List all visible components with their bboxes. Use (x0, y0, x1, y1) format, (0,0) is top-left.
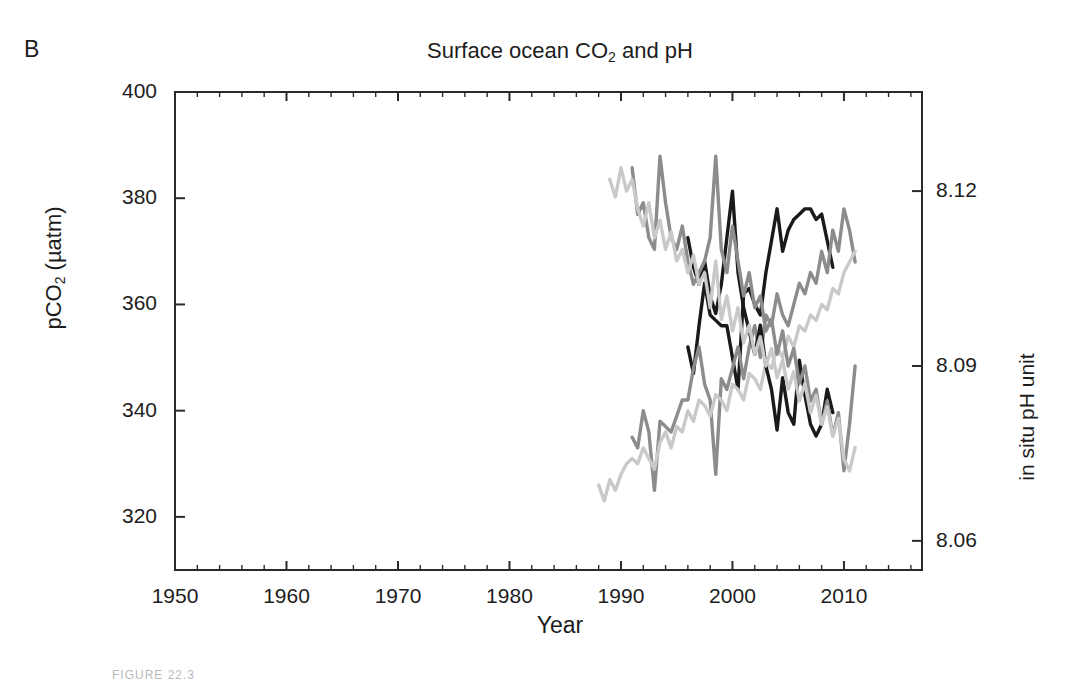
plot-area (0, 0, 1073, 682)
axes-layer (175, 92, 922, 570)
figure-container: B Surface ocean CO2 and pH pCO2 (µatm) i… (0, 0, 1073, 682)
series-line (599, 251, 855, 501)
y-tick-label-right: 8.09 (936, 353, 1026, 377)
y-tick-label-right: 8.06 (936, 528, 1026, 552)
figure-caption: FIGURE 22.3 (112, 668, 195, 682)
y-tick-label-left: 360 (67, 291, 157, 315)
x-tick-label: 1950 (130, 584, 220, 608)
y-tick-label-left: 320 (67, 504, 157, 528)
x-tick-label: 2010 (799, 584, 889, 608)
x-tick-label: 1990 (576, 584, 666, 608)
x-tick-label: 2000 (687, 584, 777, 608)
y-tick-label-left: 340 (67, 398, 157, 422)
series-layer (599, 156, 855, 501)
plot-frame (175, 92, 922, 570)
x-tick-label: 1960 (241, 584, 331, 608)
x-tick-label: 1970 (353, 584, 443, 608)
x-tick-label: 1980 (464, 584, 554, 608)
y-tick-label-left: 380 (67, 185, 157, 209)
y-tick-label-right: 8.12 (936, 178, 1026, 202)
y-tick-label-left: 400 (67, 79, 157, 103)
